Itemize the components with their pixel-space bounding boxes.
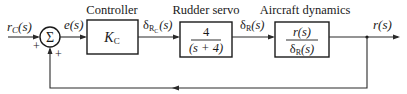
rudder-servo-title: Rudder servo: [173, 3, 240, 17]
feedback-arrowhead-icon: [48, 47, 53, 54]
aircraft-dynamics-numerator: r(s): [293, 25, 311, 39]
summing-junction: Σ: [40, 27, 60, 47]
rudder-servo-numerator: 4: [203, 25, 210, 39]
feedback-plus-sign: +: [55, 47, 62, 61]
output-signal-label: r(s): [373, 17, 392, 32]
error-signal-label: e(s): [64, 17, 84, 32]
aircraft-dynamics-denominator: δR(s): [290, 42, 314, 57]
servo-output-arrowhead-icon: [268, 35, 275, 40]
rudder-servo-denominator: (s + 4): [189, 41, 223, 55]
controller-title: Controller: [86, 3, 138, 17]
input-signal-label: rC(s): [7, 19, 32, 35]
controller-output-label: δRC(s): [143, 18, 172, 34]
feedback-direction-arrowhead-icon: [172, 86, 179, 91]
output-arrowhead-icon: [393, 35, 400, 40]
input-plus-sign: +: [33, 39, 40, 53]
aircraft-dynamics-title: Aircraft dynamics: [260, 3, 351, 17]
error-arrowhead-icon: [80, 35, 87, 40]
controller-output-arrowhead-icon: [173, 35, 180, 40]
sigma-symbol: Σ: [46, 30, 54, 45]
block-diagram: rC(s) Σ + + e(s) Controller KC δRC(s) Ru…: [0, 0, 407, 94]
servo-output-label: δR(s): [240, 18, 264, 33]
